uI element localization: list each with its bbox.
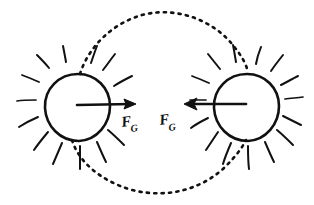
ray (285, 97, 303, 99)
ray (34, 132, 48, 150)
right-force-label: F G (157, 111, 177, 133)
left-celestial-body (17, 46, 132, 169)
right-celestial-body (190, 45, 303, 169)
ray (277, 130, 293, 145)
ray (22, 75, 39, 82)
ray (248, 146, 249, 169)
ray (19, 117, 38, 127)
ray (103, 54, 115, 70)
ray (53, 143, 62, 164)
ray (192, 76, 209, 83)
left-force-arrowhead (124, 99, 136, 109)
diagram-canvas: F G F G (0, 0, 314, 205)
left-force-vector (77, 99, 136, 109)
orbit-arc-upper (80, 12, 248, 74)
left-force-subscript: G (130, 122, 139, 134)
ray (271, 55, 283, 71)
ray (17, 100, 36, 101)
ray (108, 130, 124, 145)
orbit-arc-lower (72, 140, 246, 193)
ray (63, 46, 66, 62)
ray (281, 76, 298, 85)
ray (191, 118, 208, 128)
left-body-outline (45, 74, 110, 141)
ray (114, 76, 132, 86)
ray (37, 55, 49, 68)
ray (265, 142, 274, 162)
ray (223, 143, 231, 164)
ray (206, 132, 218, 150)
right-force-subscript: G (168, 121, 177, 133)
ray (97, 142, 106, 162)
gravitation-diagram: F G F G (0, 0, 314, 205)
ray (283, 116, 301, 125)
left-force-label: F G (119, 113, 139, 134)
left-force-shaft (77, 104, 131, 105)
right-body-outline (214, 74, 279, 141)
ray (256, 47, 261, 64)
ray (208, 54, 220, 69)
right-body-rays (190, 45, 303, 169)
left-body-rays (17, 46, 132, 169)
